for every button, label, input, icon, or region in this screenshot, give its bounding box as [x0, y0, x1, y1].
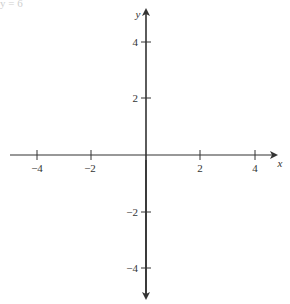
x-axis-label: x [277, 157, 283, 169]
x-tick-label: 2 [197, 162, 203, 174]
y-tick-label: 2 [133, 92, 139, 104]
x-tick-label: 4 [252, 162, 258, 174]
x-tick-label: −4 [31, 162, 43, 174]
y-axis-label: y [135, 8, 141, 20]
coordinate-plane: −4 −2 2 4 4 2 −2 −4 x y [0, 0, 290, 304]
x-tick-label: −2 [84, 162, 96, 174]
y-tick-label: −4 [126, 262, 138, 274]
y-tick-label: −2 [126, 206, 138, 218]
y-tick-label: 4 [133, 36, 139, 48]
